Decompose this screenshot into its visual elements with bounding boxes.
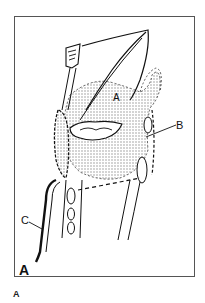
- panel-label: A: [19, 263, 29, 277]
- laryngoscope-handle: [66, 44, 80, 68]
- label-region-a: A: [113, 93, 120, 103]
- posterior-dashed-wall: [152, 110, 154, 175]
- trachea-ring-3: [68, 222, 75, 234]
- airway-illustration: [0, 0, 205, 303]
- label-c: C: [21, 215, 29, 226]
- trachea-ring-2: [68, 208, 75, 220]
- arytenoid-lower: [137, 157, 147, 183]
- dashed-connector: [78, 178, 140, 190]
- label-b: B: [176, 120, 183, 131]
- trachea-ring-1: [67, 188, 75, 204]
- endotracheal-tube-inner: [46, 182, 60, 252]
- figure-caption: A: [13, 289, 20, 299]
- esophagus-tube: [118, 180, 140, 240]
- arytenoid-upper: [144, 117, 152, 133]
- leader-line-c: [29, 222, 42, 229]
